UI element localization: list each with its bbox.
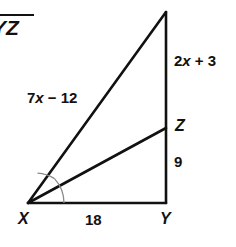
vertex-label-w: W — [155, 0, 170, 3]
side-label-xw-suffix: − 12 — [44, 89, 78, 106]
triangle-drawing — [0, 0, 236, 247]
side-label-xw-variable: x — [35, 89, 43, 106]
vertex-label-y: Y — [160, 211, 171, 227]
side-label-wz-suffix: + 3 — [191, 52, 216, 69]
angle-arc-lower-icon — [55, 179, 65, 203]
side-label-xy: 18 — [85, 212, 102, 227]
side-label-xw: 7x − 12 — [27, 90, 77, 105]
geometry-figure-canvas: YZ W Z X Y 2x + 3 7x − 12 9 18 — [0, 0, 236, 247]
side-label-zy: 9 — [174, 154, 182, 169]
side-label-wz: 2x + 3 — [174, 53, 216, 68]
segment-xz-bisector-line — [28, 128, 166, 203]
vertex-label-z: Z — [175, 118, 185, 134]
segment-xw-line — [28, 12, 166, 203]
side-label-wz-variable: x — [182, 52, 190, 69]
vertex-label-x: X — [18, 211, 29, 227]
